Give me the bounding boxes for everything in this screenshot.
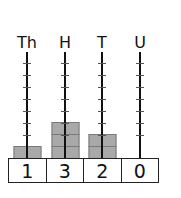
rod-units [139,52,141,158]
rod-tens [101,52,103,158]
tick-mark [23,63,31,64]
tick-mark [98,99,106,100]
tick-mark [61,123,69,124]
tick-mark [98,87,106,88]
tick-mark [136,63,144,64]
tick-mark [23,99,31,100]
tick-mark [136,135,144,136]
tick-mark [61,75,69,76]
tick-mark [98,75,106,76]
rod-thousands [26,52,28,158]
tick-mark [136,87,144,88]
tick-mark [98,63,106,64]
tick-mark [61,87,69,88]
tick-mark [136,123,144,124]
tick-mark [136,99,144,100]
tick-mark [23,123,31,124]
tick-mark [98,123,106,124]
tick-mark [98,135,106,136]
tick-mark [23,75,31,76]
tick-mark [61,63,69,64]
tick-mark [136,111,144,112]
tick-mark [61,99,69,100]
tick-mark [98,111,106,112]
tick-mark [136,75,144,76]
tick-mark [23,87,31,88]
tick-mark [61,135,69,136]
rod-hundreds [64,52,66,158]
tick-mark [23,135,31,136]
tick-mark [61,111,69,112]
tick-mark [23,111,31,112]
